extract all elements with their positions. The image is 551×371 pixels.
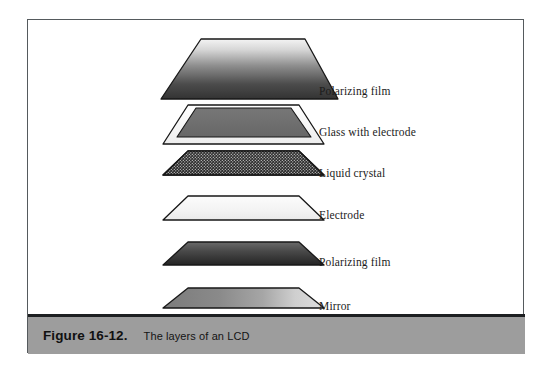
layer-label-glass-with-electrode: Glass with electrode [319,127,416,139]
layer-shape-mirror [163,288,324,308]
layer-shape-glass-with-electrode [163,105,324,144]
glass-inset-electrode-panel [177,108,311,137]
figure-caption-text: The layers of an LCD [144,330,250,342]
layer-label-mirror: Mirror [319,301,351,313]
lcd-layer-stack-svg [28,20,525,314]
layer-shape-polarizing-film-bottom [163,242,324,265]
layer-shape-polarizing-film-top [161,39,338,99]
layer-shape-liquid-crystal [163,151,324,175]
layer-label-liquid-crystal: Liquid crystal [319,168,385,180]
layer-label-polarizing-film-top: Polarizing film [319,86,391,98]
figure-frame: Polarizing film Glass with electrode Liq… [27,19,524,353]
layer-shape-electrode [163,196,324,220]
figure-caption-bar: Figure 16-12. The layers of an LCD [28,314,525,354]
layer-stack-diagram: Polarizing film Glass with electrode Liq… [28,20,525,314]
layer-label-polarizing-film-bottom: Polarizing film [319,257,391,269]
figure-root: Polarizing film Glass with electrode Liq… [0,0,551,371]
figure-number: Figure 16-12. [43,328,128,343]
layer-label-electrode: Electrode [319,210,364,222]
